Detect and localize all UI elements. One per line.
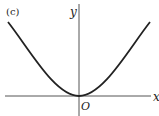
- origin-label: O: [81, 101, 90, 112]
- y-axis-label: y: [70, 6, 77, 18]
- graph: [0, 0, 159, 116]
- panel-label: (c): [6, 7, 19, 17]
- x-axis-label: x: [153, 91, 159, 103]
